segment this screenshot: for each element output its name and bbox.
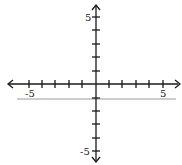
coordinate-plane: -5 5 5 -5	[0, 0, 182, 165]
y-label-pos-5: 5	[85, 12, 91, 23]
x-label-pos-5: 5	[160, 88, 166, 99]
y-label-neg-5: -5	[80, 146, 90, 157]
x-label-neg-5: -5	[25, 88, 35, 99]
x-axis	[8, 80, 180, 88]
